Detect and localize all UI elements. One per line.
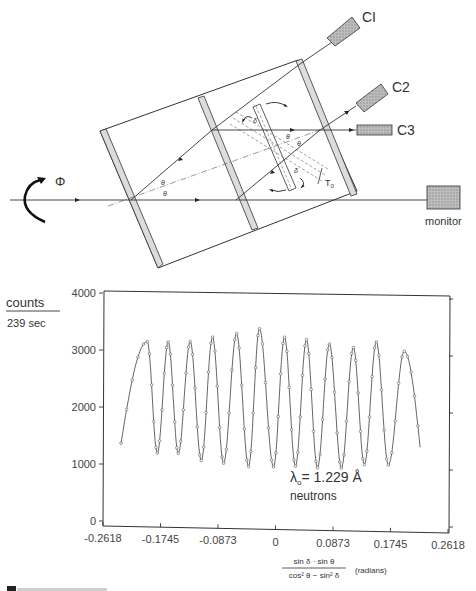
x-tick-label: 0.0873 [316,537,350,549]
data-point [169,353,172,356]
data-point [233,339,236,342]
svg-text:C2: C2 [392,79,410,95]
data-point [286,350,289,353]
interference-chart: 01000200030004000 -0.2618-0.1745-0.08730… [6,287,465,580]
data-point [331,356,334,359]
data-point [275,452,278,455]
data-points [120,328,420,470]
data-point [185,372,188,375]
y-tick-label: 3000 [72,344,96,356]
x-tick-label: -0.0873 [199,534,236,546]
data-point [362,457,365,460]
data-point [413,395,416,398]
data-point [308,352,311,355]
data-point [401,356,404,359]
data-point [315,460,318,463]
data-point [247,465,250,468]
data-point [257,334,260,337]
data-point [391,451,394,454]
data-point [187,346,190,349]
data-point [277,415,280,418]
data-point [290,428,293,431]
interferometer-diagram: θ θ θ θ δ δ T0 Φ CI C2 C3 monitor [10,9,462,268]
data-point [385,458,388,461]
data-point [191,353,194,356]
data-point [125,408,128,411]
y-axis-label-numerator: counts [6,295,45,310]
angle-theta-label: θ [163,190,167,197]
data-point [196,426,199,429]
x-axis-units: (radians) [355,566,387,575]
data-point [375,341,378,344]
phi-rotation-arrow-icon [25,180,45,222]
y-tick-label: 1000 [72,458,96,470]
symmetry-axis [108,130,320,206]
data-point [158,440,161,443]
phase-shifter-slab [253,104,296,191]
data-point [363,463,366,466]
data-point [267,427,270,430]
beam-paths [131,40,427,200]
detector-c2: C2 [356,79,410,112]
y-axis-label-denominator: 239 sec [7,317,46,329]
rotation-arrow-icon [300,178,304,187]
crystal-slab-3 [296,59,357,196]
data-point [131,379,134,382]
data-point [387,464,390,467]
crystal-slab-1 [100,129,163,268]
data-point [207,371,210,374]
rotation-arrow-icon [266,102,286,106]
data-point [366,450,369,453]
data-point [352,346,355,349]
data-point [406,355,409,358]
data-point [359,430,362,433]
phase-shifter-label: T0 [325,178,335,189]
wavelength-annotation: λo= 1.229 Å [290,469,362,487]
data-point [383,429,386,432]
data-point [165,346,168,349]
data-point [142,343,145,346]
data-point [216,385,219,388]
svg-text:CI: CI [362,9,376,25]
rotation-arrow-icon [271,190,286,192]
svg-text:monitor: monitor [425,215,462,227]
detector-c1: CI [327,9,376,46]
data-point [283,336,286,339]
data-point [345,420,348,423]
crystal-slab-2 [198,96,258,230]
data-point [218,426,221,429]
data-point [403,350,406,353]
data-point [198,453,201,456]
data-point [173,421,176,424]
angle-delta-label: δ [294,167,298,174]
data-point [163,372,166,375]
data-point [305,338,308,341]
y-tick-label: 4000 [72,287,96,299]
data-point [354,359,357,362]
data-point [150,384,153,387]
data-curve [121,329,420,468]
data-point [240,384,243,387]
data-point [299,416,302,419]
data-point [338,461,341,464]
data-point [373,347,376,350]
data-point [288,386,291,389]
data-point [368,416,371,419]
data-point [180,440,183,443]
x-tick-label: -0.2618 [84,532,121,544]
y-axis: 01000200030004000 [72,287,103,527]
data-point [333,391,336,394]
data-point [394,420,397,423]
data-point [189,340,192,343]
data-point [137,356,140,359]
data-point [297,451,300,454]
svg-text:C3: C3 [397,122,415,138]
data-point [250,450,253,453]
phi-label: Φ [55,174,65,189]
x-tick-label: 0.2618 [431,539,465,551]
data-point [246,459,249,462]
data-point [221,456,224,459]
data-point [238,347,241,350]
data-point [225,448,228,451]
data-point [336,432,339,435]
